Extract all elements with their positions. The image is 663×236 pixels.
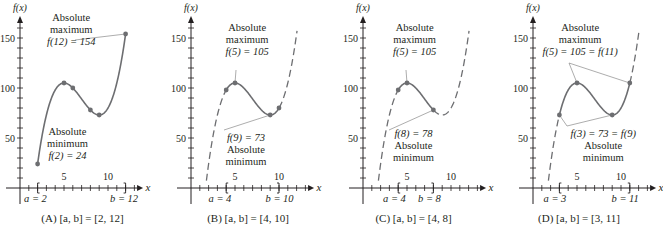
annotation-line: minimum	[393, 152, 434, 164]
panel-d-caption: (D) [a, b] = [3, 11]	[497, 212, 662, 224]
a-label: a = 3	[544, 193, 567, 205]
svg-text:150: 150	[171, 33, 186, 44]
annotation-line: f(3) = 73 = f(9)	[571, 128, 637, 140]
annotation-line: f(12) = 154	[47, 36, 96, 48]
data-point	[223, 88, 228, 93]
svg-text:10: 10	[103, 171, 113, 182]
b-label: b = 12	[110, 193, 138, 205]
curve-dashed	[279, 31, 297, 108]
annotation-line: f(9) = 73	[226, 132, 267, 144]
svg-text:10: 10	[274, 171, 284, 182]
panel-a: xf(x)51050100150 Absolute maximum f(12) …	[0, 0, 166, 236]
svg-text:f(x): f(x)	[13, 2, 28, 14]
panel-b: xf(x)51050100150 Absolute maximum f(5) =…	[166, 0, 332, 236]
svg-text:150: 150	[0, 33, 15, 44]
svg-text:100: 100	[343, 83, 358, 94]
curve-dashed	[629, 31, 638, 83]
annotation-line: Absolute	[571, 140, 637, 152]
panel-d-max-annotation: Absolute maximum f(5) = 105 = f(11)	[543, 22, 618, 58]
b-label: b = 11	[612, 193, 639, 205]
annotation-line: minimum	[226, 156, 267, 168]
annotation-line: Absolute	[226, 22, 269, 34]
a-label: a = 4	[209, 193, 232, 205]
data-point	[609, 113, 614, 118]
svg-text:150: 150	[513, 33, 528, 44]
panel-c-min-annotation: f(8) = 78 Absolute minimum	[393, 128, 434, 164]
svg-text:10: 10	[616, 171, 626, 182]
annotation-line: f(5) = 105	[393, 46, 436, 58]
panel-c-max-annotation: Absolute maximum f(5) = 105	[393, 22, 436, 58]
annotation-line: maximum	[393, 34, 436, 46]
panel-a-caption: (A) [a, b] = [2, 12]	[0, 212, 165, 224]
annotation-line: f(8) = 78	[393, 128, 434, 140]
data-point	[627, 81, 632, 86]
curve	[398, 83, 433, 110]
panel-a-max-annotation: Absolute maximum f(12) = 154	[47, 12, 96, 48]
annotation-line: Absolute	[47, 12, 96, 24]
svg-text:50: 50	[518, 133, 528, 144]
data-point	[123, 32, 128, 37]
annotation-line: Absolute	[226, 144, 267, 156]
svg-text:10: 10	[446, 171, 456, 182]
data-point	[405, 81, 410, 86]
annotation-line: maximum	[543, 34, 618, 46]
svg-text:50: 50	[348, 133, 358, 144]
panel-a-min-annotation: Absolute minimum f(2) = 24	[47, 126, 88, 162]
panel-d: xf(x)51050100150 Absolute maximum f(5) =…	[497, 0, 663, 236]
svg-text:50: 50	[5, 133, 15, 144]
svg-text:f(x): f(x)	[526, 2, 541, 14]
data-point	[232, 81, 237, 86]
svg-text:100: 100	[513, 83, 528, 94]
svg-text:50: 50	[176, 133, 186, 144]
data-point	[70, 86, 75, 91]
svg-text:5: 5	[62, 171, 67, 182]
svg-text:x: x	[145, 181, 151, 193]
panel-b-max-annotation: Absolute maximum f(5) = 105	[226, 22, 269, 58]
annotation-line: f(5) = 105 = f(11)	[543, 46, 618, 58]
annotation-line: maximum	[47, 24, 96, 36]
annotation-line: maximum	[226, 34, 269, 46]
data-point	[431, 108, 436, 113]
data-point	[557, 113, 562, 118]
a-label: a = 4	[383, 193, 406, 205]
annotation-line: Absolute	[393, 22, 436, 34]
annotation-line: Absolute	[393, 140, 434, 152]
panel-c: xf(x)51050100150 Absolute maximum f(5) =…	[331, 0, 497, 236]
curve-dashed	[206, 90, 226, 181]
svg-text:100: 100	[171, 83, 186, 94]
svg-text:5: 5	[405, 171, 410, 182]
svg-text:x: x	[488, 181, 494, 193]
curve	[559, 83, 629, 115]
a-label: a = 2	[24, 193, 47, 205]
curve-dashed	[548, 115, 559, 181]
annotation-line: minimum	[571, 152, 637, 164]
annotation-line: f(5) = 105	[226, 46, 269, 58]
data-point	[88, 108, 93, 113]
svg-text:f(x): f(x)	[184, 2, 199, 14]
data-point	[267, 113, 272, 118]
svg-text:x: x	[657, 181, 662, 193]
annotation-line: Absolute	[543, 22, 618, 34]
svg-text:5: 5	[574, 171, 579, 182]
svg-text:x: x	[315, 181, 321, 193]
b-label: b = 8	[418, 193, 441, 205]
curve-dashed	[433, 31, 469, 115]
data-point	[97, 113, 102, 118]
annotation-line: minimum	[47, 138, 88, 150]
annotation-line: Absolute	[47, 126, 88, 138]
panel-b-min-annotation: f(9) = 73 Absolute minimum	[226, 132, 267, 168]
svg-text:f(x): f(x)	[356, 2, 371, 14]
b-label: b = 10	[266, 193, 294, 205]
panel-c-caption: (C) [a, b] = [4, 8]	[331, 212, 496, 224]
curve	[226, 83, 279, 115]
data-point	[35, 162, 40, 167]
data-point	[62, 81, 67, 86]
data-point	[276, 106, 281, 111]
panel-d-min-annotation: f(3) = 73 = f(9) Absolute minimum	[571, 128, 637, 164]
svg-text:100: 100	[0, 83, 15, 94]
panel-b-caption: (B) [a, b] = [4, 10]	[166, 212, 331, 224]
data-point	[396, 88, 401, 93]
svg-text:5: 5	[232, 171, 237, 182]
annotation-line: f(2) = 24	[47, 150, 88, 162]
